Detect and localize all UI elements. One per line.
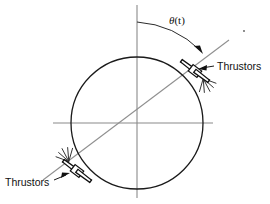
theta-argument: (t) (174, 14, 185, 27)
leader-arrowhead-lower-left (61, 173, 70, 179)
theta-arc (137, 22, 201, 51)
thruster-label-lower-left: Thrustors (5, 176, 49, 188)
leader-lower-left-group (54, 173, 70, 181)
thruster-label-upper-right: Thrustors (217, 60, 261, 72)
thruster-lower-left-icon (62, 156, 91, 185)
theta-label: θ(t) (169, 14, 185, 27)
thruster-upper-right-group (180, 56, 216, 96)
scan-speck (243, 30, 245, 32)
theta-arc-arrowhead (194, 46, 203, 55)
attitude-control-diagram: θ(t) Thrustors (0, 0, 270, 204)
diagram-canvas: θ(t) Thrustors (0, 0, 270, 204)
angle-arc-group (137, 22, 203, 54)
thruster-upper-right-icon (180, 56, 209, 85)
